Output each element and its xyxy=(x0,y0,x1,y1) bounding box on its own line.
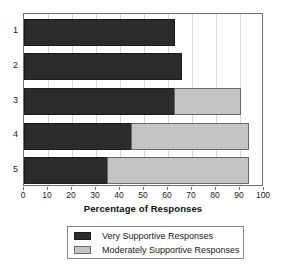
x-axis-tick-label: 100 xyxy=(251,190,275,200)
x-axis-tick-label: 80 xyxy=(203,190,227,200)
bar-segment-very-supportive xyxy=(24,123,132,150)
x-axis: 0102030405060708090100 xyxy=(0,187,284,201)
x-axis-tick-label: 20 xyxy=(59,190,83,200)
x-axis-tick-label: 0 xyxy=(11,190,35,200)
y-axis-tick-label: 3 xyxy=(0,95,18,105)
y-axis-tick-label: 5 xyxy=(0,164,18,174)
bar-segment-very-supportive xyxy=(24,157,108,184)
x-axis-title: Percentage of Responses xyxy=(23,203,263,214)
x-axis-tick-label: 50 xyxy=(131,190,155,200)
legend-item: Moderately Supportive Responses xyxy=(68,243,243,257)
y-axis-tick-label: 4 xyxy=(0,129,18,139)
chart-legend: Very Supportive Responses Moderately Sup… xyxy=(67,226,244,259)
bar-row xyxy=(24,19,175,46)
legend-label-moderately-supportive: Moderately Supportive Responses xyxy=(102,245,240,256)
x-axis-tick-label: 30 xyxy=(83,190,107,200)
y-axis-tick-label: 1 xyxy=(0,25,18,35)
plot-area xyxy=(23,13,263,186)
x-axis-tick-label: 60 xyxy=(155,190,179,200)
x-axis-tick-label: 10 xyxy=(35,190,59,200)
bar-segment-moderately-supportive xyxy=(174,88,241,115)
y-axis-tick-label: 2 xyxy=(0,60,18,70)
bar-series-layer xyxy=(24,14,262,185)
bar-row xyxy=(24,123,249,150)
bar-segment-very-supportive xyxy=(24,53,182,80)
bar-row xyxy=(24,88,241,115)
x-axis-tick-label: 90 xyxy=(227,190,251,200)
legend-swatch-moderately-supportive xyxy=(74,246,91,254)
x-axis-tick-label: 40 xyxy=(107,190,131,200)
legend-item: Very Supportive Responses xyxy=(68,229,243,243)
bar-segment-very-supportive xyxy=(24,88,175,115)
bar-segment-moderately-supportive xyxy=(107,157,249,184)
legend-swatch-very-supportive xyxy=(74,232,91,240)
bar-row xyxy=(24,157,249,184)
stacked-bar-chart: 12345 0102030405060708090100 Percentage … xyxy=(0,0,284,269)
legend-label-very-supportive: Very Supportive Responses xyxy=(102,231,213,242)
bar-segment-moderately-supportive xyxy=(131,123,249,150)
x-axis-tick-label: 70 xyxy=(179,190,203,200)
bar-segment-very-supportive xyxy=(24,19,175,46)
bar-row xyxy=(24,53,182,80)
